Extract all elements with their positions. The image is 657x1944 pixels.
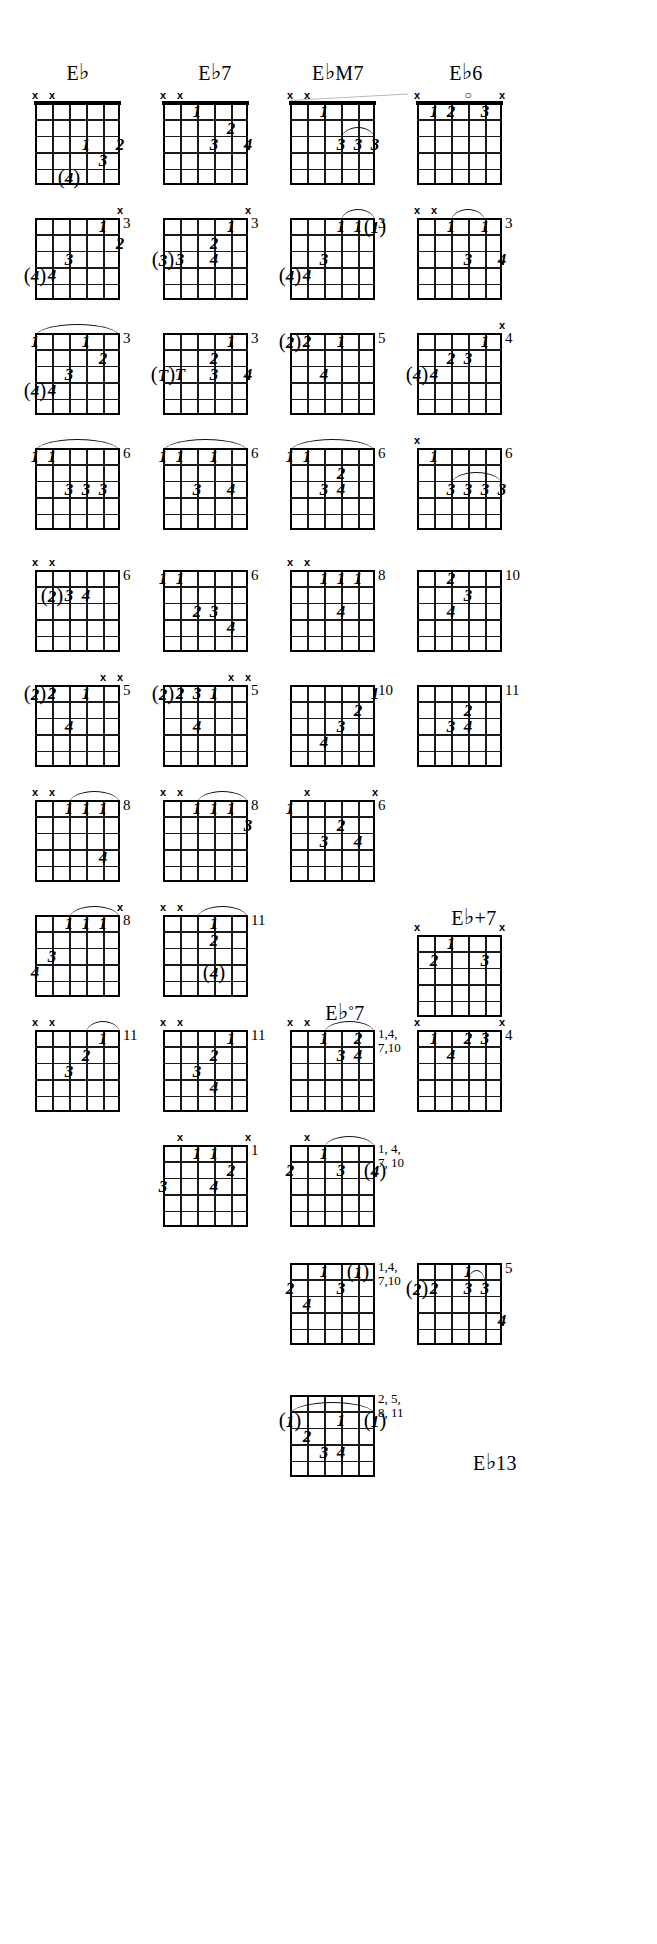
finger-marker-barre-2: (2) bbox=[406, 1277, 429, 1298]
fret-line-1 bbox=[290, 119, 375, 121]
finger-marker-3: 3 bbox=[99, 152, 108, 169]
fret-position-label: 3 bbox=[378, 216, 386, 232]
fret-position-label: 6 bbox=[123, 568, 131, 584]
fret-line-1 bbox=[163, 816, 248, 818]
fret-line-5 bbox=[290, 1225, 375, 1227]
chord-diagram-ebM7-7: 1234xx6 bbox=[290, 800, 375, 882]
fret-line-1 bbox=[163, 234, 248, 236]
finger-marker-1: 1 bbox=[99, 915, 108, 932]
fret-position-label: 10 bbox=[505, 568, 520, 584]
fret-line-5 bbox=[35, 880, 120, 882]
fret-line-4 bbox=[290, 1096, 375, 1098]
finger-marker-1: 1 bbox=[210, 448, 219, 465]
fret-position-label: 3 bbox=[123, 216, 131, 232]
fret-position-label: 1,4, 7,10 bbox=[378, 1027, 401, 1054]
muted-string-icon-0: x bbox=[160, 90, 166, 101]
heading-eb6: E♭6 bbox=[449, 60, 483, 86]
finger-marker-3: 3 bbox=[210, 136, 219, 153]
string-line-0 bbox=[35, 103, 37, 185]
fret-position-label: 8 bbox=[123, 913, 131, 929]
fret-line-5 bbox=[417, 298, 502, 300]
finger-marker-barre-1: (1) bbox=[279, 1409, 302, 1430]
chord-diagram-ebM7-6: 123410 bbox=[290, 685, 375, 767]
fret-position-label: 6 bbox=[251, 568, 259, 584]
fretboard-grid: 1114xx bbox=[35, 800, 120, 882]
string-line-4 bbox=[231, 570, 233, 652]
fret-line-0 bbox=[163, 218, 248, 220]
finger-marker-4: 4 bbox=[430, 366, 439, 383]
finger-marker-3: 3 bbox=[337, 136, 346, 153]
fret-line-5 bbox=[35, 650, 120, 652]
chord-diagram-ebdim7-4: (1)1(1)2342, 5, 8, 11 bbox=[290, 1395, 375, 1477]
finger-marker-3: 3 bbox=[65, 1063, 74, 1080]
finger-marker-2: 2 bbox=[48, 685, 57, 702]
fret-line-3 bbox=[163, 849, 248, 851]
fret-position-label: 4 bbox=[505, 331, 513, 347]
fret-line-1 bbox=[417, 586, 502, 588]
fret-line-3 bbox=[290, 1079, 375, 1081]
string-line-5 bbox=[118, 448, 120, 530]
string-line-2 bbox=[197, 333, 199, 415]
finger-marker-barre-2: (2) bbox=[152, 683, 175, 704]
fretboard-grid: 234 bbox=[417, 570, 502, 652]
fret-line-5 bbox=[417, 1343, 502, 1345]
fret-line-0 bbox=[35, 218, 120, 220]
fretboard-grid: (1)1(1)234 bbox=[290, 1395, 375, 1477]
fret-line-5 bbox=[35, 765, 120, 767]
chord-diagram-eb13-1: (2)213345 bbox=[417, 1263, 502, 1345]
heading-ebaug7: E♭+7 bbox=[451, 905, 497, 931]
string-line-3 bbox=[341, 1030, 343, 1112]
finger-marker-2: 2 bbox=[99, 349, 108, 366]
muted-string-icon-1: x bbox=[304, 1017, 310, 1028]
finger-marker-barre-1: (1) bbox=[347, 1261, 370, 1282]
finger-marker-2: 2 bbox=[176, 685, 185, 702]
string-line-1 bbox=[434, 935, 436, 1017]
string-line-5 bbox=[373, 1395, 375, 1477]
finger-marker-1: 1 bbox=[337, 333, 346, 350]
fret-position-label: 5 bbox=[378, 331, 386, 347]
fret-line-4 bbox=[290, 866, 375, 868]
fret-line-4 bbox=[290, 751, 375, 753]
barre-arc-0 bbox=[197, 906, 248, 919]
string-line-3 bbox=[86, 218, 88, 300]
finger-marker-1: 1 bbox=[210, 685, 219, 702]
chord-diagram-ebdim7-2: 213(4)x1, 4, 7, 10 bbox=[290, 1145, 375, 1227]
fret-line-4 bbox=[290, 636, 375, 638]
finger-marker-1: 1 bbox=[210, 1145, 219, 1162]
finger-marker-3: 3 bbox=[320, 251, 329, 268]
string-line-0 bbox=[417, 448, 419, 530]
finger-marker-2: 2 bbox=[286, 1161, 295, 1178]
fret-line-4 bbox=[417, 284, 502, 286]
muted-string-icon-1: x bbox=[177, 902, 183, 913]
finger-marker-4: 4 bbox=[193, 718, 202, 735]
chord-diagram-ebM7-4: 112346 bbox=[290, 448, 375, 530]
string-line-5 bbox=[373, 570, 375, 652]
finger-marker-3: 3 bbox=[65, 481, 74, 498]
finger-marker-3: 3 bbox=[159, 1178, 168, 1195]
string-line-0 bbox=[290, 1145, 292, 1227]
chord-diagram-eb7-6: (2)2134xx5 bbox=[163, 685, 248, 767]
finger-marker-3: 3 bbox=[447, 718, 456, 735]
finger-marker-4: 4 bbox=[320, 734, 329, 751]
string-line-0 bbox=[290, 103, 292, 185]
fret-position-label: 6 bbox=[123, 446, 131, 462]
fret-line-4 bbox=[290, 1329, 375, 1331]
string-line-1 bbox=[307, 685, 309, 767]
fretboard-grid: (2)214 bbox=[290, 333, 375, 415]
finger-marker-4: 4 bbox=[210, 1079, 219, 1096]
barre-arc-0 bbox=[197, 791, 248, 804]
fret-line-3 bbox=[163, 1079, 248, 1081]
fretboard-grid: 12(T)T34 bbox=[163, 333, 248, 415]
string-line-5 bbox=[500, 685, 502, 767]
string-line-2 bbox=[197, 915, 199, 997]
fretboard-grid: (2)34xx bbox=[35, 570, 120, 652]
fret-line-4 bbox=[35, 636, 120, 638]
string-line-2 bbox=[451, 1263, 453, 1345]
fret-line-4 bbox=[290, 1211, 375, 1213]
finger-marker-1: 1 bbox=[82, 915, 91, 932]
chord-diagram-eb-9: 123xx11 bbox=[35, 1030, 120, 1112]
finger-marker-1: 1 bbox=[159, 448, 168, 465]
fret-line-5 bbox=[290, 528, 375, 530]
string-line-5 bbox=[246, 915, 248, 997]
fret-line-3 bbox=[417, 984, 502, 986]
